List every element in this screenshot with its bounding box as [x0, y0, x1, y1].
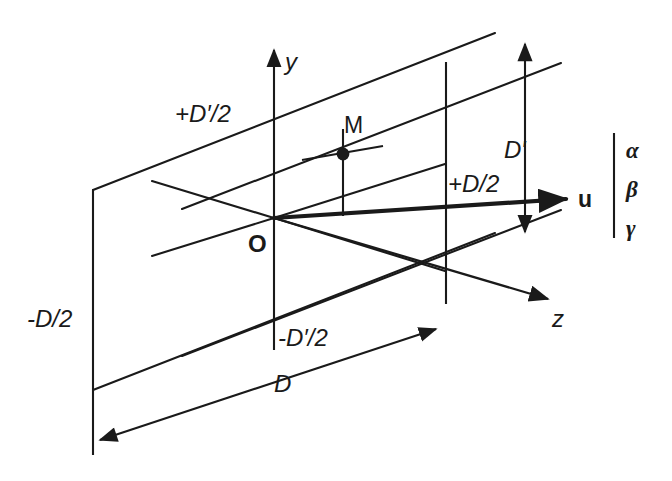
minus-d-prime-half-label: -D′/2 [278, 324, 328, 351]
z-axis-label: z [551, 305, 564, 332]
u-vector-label: u [578, 186, 592, 212]
near-plane-bottom-edge [182, 210, 561, 356]
origin-label: O [248, 230, 267, 257]
geometry-figure: y z O M u α β γ D′ D +D′/2 -D′/2 +D/2 -D… [0, 0, 672, 481]
dimension-d-prime-label: D′ [504, 136, 527, 163]
near-plane-outline [182, 63, 561, 356]
diagram-canvas: y z O M u α β γ D′ D +D′/2 -D′/2 +D/2 -D… [0, 0, 672, 481]
m-point-label: M [344, 112, 363, 138]
dimension-d-label: D [274, 370, 291, 397]
d-dimension-line [100, 329, 436, 440]
plus-d-half-label: +D/2 [448, 170, 499, 197]
plus-d-prime-half-label: +D′/2 [175, 100, 231, 127]
u-component-gamma: γ [626, 216, 636, 241]
m-point-dot [337, 148, 350, 161]
u-component-beta: β [625, 177, 638, 202]
minus-d-half-label: -D/2 [27, 305, 72, 332]
y-axis-label: y [283, 48, 299, 75]
direction-vector-u [274, 199, 566, 218]
m-point-construction [302, 129, 383, 216]
dimension-d [93, 329, 436, 455]
u-vector-line [274, 199, 566, 218]
depth-line-upper-left [152, 181, 274, 218]
u-component-alpha: α [626, 138, 640, 163]
